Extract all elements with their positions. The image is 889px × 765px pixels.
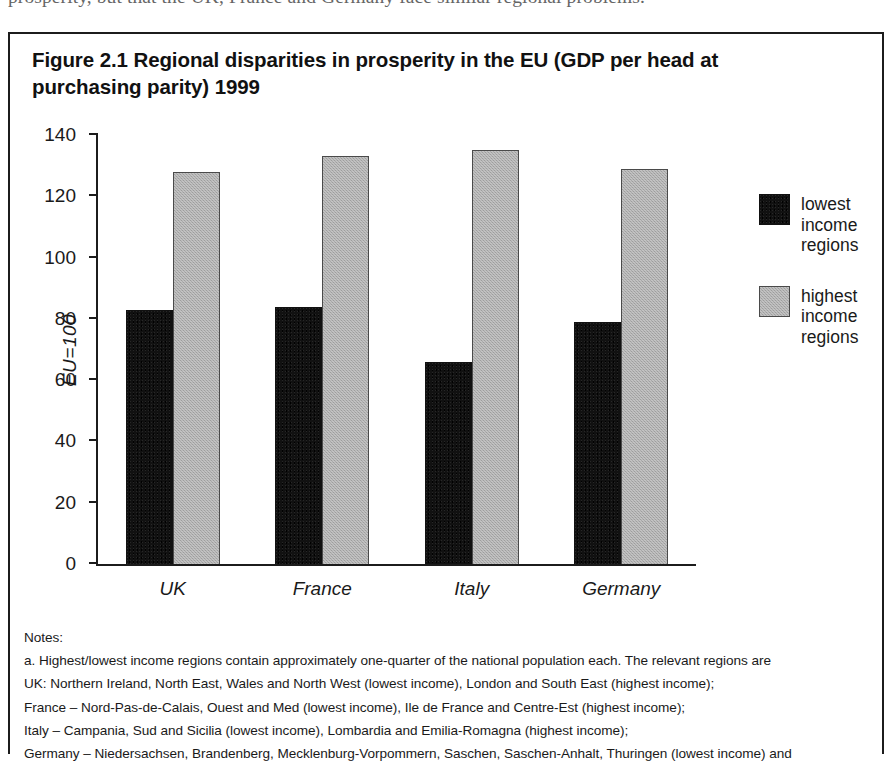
bar-group-bars xyxy=(98,135,248,564)
y-tick: 40 xyxy=(89,439,98,441)
bar-group-bars xyxy=(248,135,398,564)
y-tick: 0 xyxy=(89,562,98,564)
bar-group: UK xyxy=(98,135,248,564)
y-tick-label: 60 xyxy=(55,369,76,391)
bar-group: France xyxy=(248,135,398,564)
bar-group-bars xyxy=(547,135,697,564)
y-tick-label: 0 xyxy=(65,553,76,575)
y-tick-label: 100 xyxy=(44,247,76,269)
y-tick-label: 20 xyxy=(55,492,76,514)
legend-label-highest-line1: highest xyxy=(801,286,857,306)
bar-lowest-income[interactable] xyxy=(574,322,621,564)
note-line: UK: Northern Ireland, North East, Wales … xyxy=(24,672,874,695)
bar-highest-income[interactable] xyxy=(472,150,519,564)
chart-legend: lowest income regions highest income reg… xyxy=(759,194,879,377)
figure-notes: Notes: a. Highest/lowest income regions … xyxy=(24,626,874,765)
x-axis-category-label: UK xyxy=(98,578,248,600)
page-body-text-cutoff: prosperity, but that the UK, France and … xyxy=(0,0,889,20)
legend-label-highest-line2: income xyxy=(801,306,857,326)
y-tick: 60 xyxy=(89,378,98,380)
x-axis-category-label: Italy xyxy=(397,578,547,600)
bar-lowest-income[interactable] xyxy=(126,310,173,564)
legend-label-lowest-line1: lowest xyxy=(801,194,851,214)
legend-item-lowest: lowest income regions xyxy=(759,194,879,256)
bar-lowest-income[interactable] xyxy=(425,362,472,564)
legend-label-highest-line3: regions xyxy=(801,327,858,347)
legend-swatch-lowest-icon xyxy=(759,194,790,225)
bar-highest-income[interactable] xyxy=(173,172,220,564)
y-tick: 140 xyxy=(89,133,98,135)
legend-label-lowest: lowest income regions xyxy=(801,194,858,256)
y-tick: 120 xyxy=(89,194,98,196)
legend-swatch-highest-icon xyxy=(759,286,790,317)
y-tick-label: 120 xyxy=(44,185,76,207)
chart-plot-area: EU=100 020406080100120140 UKFranceItalyG… xyxy=(10,34,886,594)
chart-axes: EU=100 020406080100120140 UKFranceItalyG… xyxy=(96,135,696,566)
cutoff-text-line: prosperity, but that the UK, France and … xyxy=(8,0,645,8)
y-tick-label: 40 xyxy=(55,430,76,452)
bar-lowest-income[interactable] xyxy=(275,307,322,564)
bar-group: Italy xyxy=(397,135,547,564)
note-line: a. Highest/lowest income regions contain… xyxy=(24,649,874,672)
legend-label-highest: highest income regions xyxy=(801,286,858,348)
bar-highest-income[interactable] xyxy=(621,169,668,564)
y-tick: 100 xyxy=(89,256,98,258)
bar-group: Germany xyxy=(547,135,697,564)
x-axis-category-label: France xyxy=(248,578,398,600)
y-tick-label: 80 xyxy=(55,308,76,330)
legend-item-highest: highest income regions xyxy=(759,286,879,348)
y-tick: 80 xyxy=(89,317,98,319)
legend-label-lowest-line3: regions xyxy=(801,235,858,255)
bar-group-bars xyxy=(397,135,547,564)
bar-highest-income[interactable] xyxy=(322,156,369,564)
note-line: France – Nord-Pas-de-Calais, Ouest and M… xyxy=(24,696,874,719)
figure-container: Figure 2.1 Regional disparities in prosp… xyxy=(8,32,884,754)
x-axis-category-label: Germany xyxy=(547,578,697,600)
y-tick: 20 xyxy=(89,501,98,503)
note-line: Germany – Niedersachsen, Brandenberg, Me… xyxy=(24,742,874,765)
notes-list: a. Highest/lowest income regions contain… xyxy=(24,649,874,765)
notes-heading: Notes: xyxy=(24,626,874,649)
y-tick-label: 140 xyxy=(44,124,76,146)
legend-label-lowest-line2: income xyxy=(801,215,857,235)
note-line: Italy – Campania, Sud and Sicilia (lowes… xyxy=(24,719,874,742)
